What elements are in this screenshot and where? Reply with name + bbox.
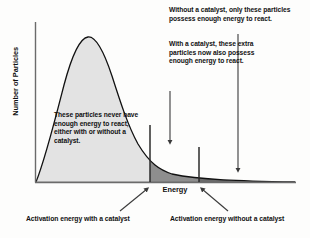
figure-canvas: Without a catalyst, only these particles…: [0, 0, 310, 238]
annotation-with-catalyst: With a catalyst, these extra particles n…: [169, 40, 263, 66]
caption-activation-energy-without-catalyst: Activation energy without a catalyst: [170, 215, 310, 224]
leader-arrow-caption-right: [202, 189, 228, 211]
leader-arrow-caption-left: [120, 189, 147, 211]
x-axis-label: Energy: [152, 186, 198, 195]
annotation-inside-curve: These particles never have enough energy…: [54, 111, 142, 145]
annotation-without-catalyst: Without a catalyst, only these particles…: [169, 6, 303, 23]
distribution-chart: [0, 0, 310, 238]
y-axis-label: Number of Particles: [12, 38, 21, 124]
caption-activation-energy-with-catalyst: Activation energy with a catalyst: [26, 215, 156, 224]
